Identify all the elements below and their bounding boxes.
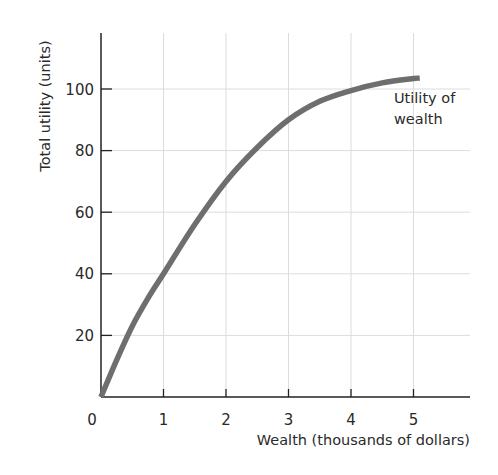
x-tick-label: 2 bbox=[221, 411, 231, 429]
origin-label: 0 bbox=[87, 411, 97, 429]
annotation-line: Utility of bbox=[394, 90, 456, 106]
axes bbox=[101, 33, 470, 397]
x-tick-label: 5 bbox=[409, 411, 419, 429]
x-tick-label: 4 bbox=[346, 411, 356, 429]
x-tick-label: 1 bbox=[159, 411, 169, 429]
utility-of-wealth-chart: 1234520406080100 0 Wealth (thousands of … bbox=[0, 0, 498, 475]
y-tick-label: 40 bbox=[75, 265, 94, 283]
grid-lines bbox=[101, 33, 470, 397]
curve-annotation: Utility ofwealth bbox=[394, 90, 456, 127]
y-tick-label: 80 bbox=[75, 142, 94, 160]
tick-labels: 1234520406080100 bbox=[65, 81, 418, 430]
x-tick-label: 3 bbox=[284, 411, 294, 429]
tick-marks bbox=[101, 89, 414, 397]
y-axis-title: Total utility (units) bbox=[37, 40, 53, 172]
y-tick-label: 60 bbox=[75, 204, 94, 222]
y-tick-label: 20 bbox=[75, 327, 94, 345]
utility-curve bbox=[101, 78, 420, 397]
annotation-line: wealth bbox=[394, 111, 443, 127]
x-axis-title: Wealth (thousands of dollars) bbox=[257, 432, 470, 448]
y-tick-label: 100 bbox=[65, 81, 94, 99]
